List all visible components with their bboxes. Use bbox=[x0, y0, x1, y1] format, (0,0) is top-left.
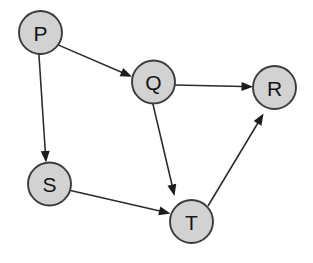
node-label: P bbox=[33, 22, 47, 45]
arrowhead-icon bbox=[158, 207, 170, 216]
graph-edge-t-to-r bbox=[208, 114, 264, 207]
node-label: Q bbox=[145, 71, 161, 94]
edge-line bbox=[153, 104, 173, 188]
arrowhead-icon bbox=[254, 114, 264, 126]
graph-node-t[interactable]: T bbox=[170, 200, 213, 243]
edge-line bbox=[208, 122, 259, 206]
arrowhead-icon bbox=[241, 82, 253, 91]
arrowhead-icon bbox=[167, 184, 176, 196]
edge-line bbox=[175, 85, 244, 87]
graph-node-r[interactable]: R bbox=[253, 66, 296, 109]
graph-edge-p-to-q bbox=[58, 45, 132, 77]
edge-line bbox=[58, 45, 125, 74]
arrowhead-icon bbox=[120, 68, 132, 77]
graph-edge-q-to-r bbox=[175, 82, 253, 91]
edge-line bbox=[39, 54, 46, 154]
graph-node-q[interactable]: Q bbox=[132, 61, 175, 104]
node-label: R bbox=[267, 77, 282, 100]
directed-graph-figure: PQRST bbox=[0, 0, 313, 263]
arrowhead-icon bbox=[41, 151, 50, 163]
node-label: S bbox=[42, 173, 56, 196]
graph-edge-q-to-t bbox=[153, 104, 176, 197]
edge-line bbox=[71, 191, 162, 212]
node-label: T bbox=[185, 211, 198, 234]
graph-node-s[interactable]: S bbox=[28, 163, 71, 206]
graph-edge-s-to-t bbox=[71, 191, 171, 216]
graph-canvas: PQRST bbox=[0, 0, 313, 263]
graph-node-p[interactable]: P bbox=[19, 11, 62, 54]
graph-edge-p-to-s bbox=[39, 54, 50, 163]
